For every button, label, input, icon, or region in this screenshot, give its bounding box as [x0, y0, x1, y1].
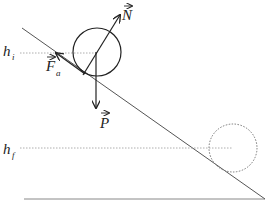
- diagram-canvas: N F a P h i h f: [0, 0, 268, 210]
- final-height-label: h f: [3, 141, 16, 160]
- normal-force-label: N: [121, 6, 133, 23]
- svg-text:N: N: [121, 7, 133, 23]
- svg-text:h: h: [3, 43, 11, 59]
- normal-force-arrow: [83, 15, 120, 75]
- friction-force-label: F a: [45, 57, 61, 78]
- svg-text:h: h: [3, 141, 11, 157]
- svg-text:a: a: [56, 68, 61, 78]
- initial-height-label: h i: [3, 43, 15, 62]
- svg-text:i: i: [12, 52, 15, 62]
- svg-text:P: P: [99, 115, 109, 131]
- incline-line: [22, 28, 265, 199]
- weight-label: P: [99, 113, 109, 131]
- inclined-plane-diagram: N F a P h i h f: [0, 0, 268, 210]
- svg-text:F: F: [45, 58, 56, 74]
- svg-text:f: f: [12, 150, 16, 160]
